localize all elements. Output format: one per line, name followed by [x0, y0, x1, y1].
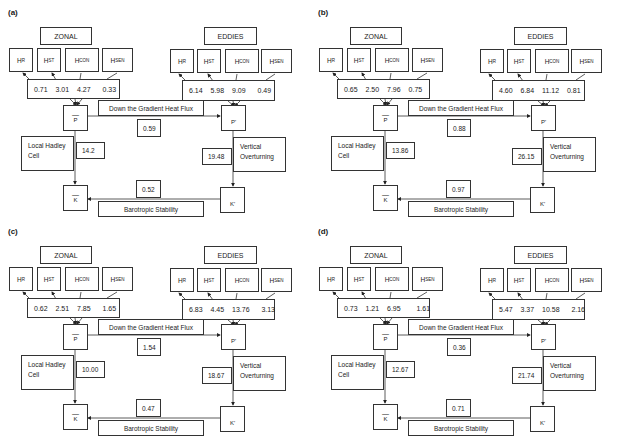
eddies-header: EDDIES: [514, 246, 567, 264]
zonal-values: 0.62 2.51 7.85 1.65: [27, 298, 120, 318]
panel-label: (c): [8, 227, 18, 236]
gradient-flux-value: 1.54: [137, 338, 161, 356]
zonal-header: ZONAL: [40, 246, 92, 264]
gradient-flux-value: 0.59: [137, 119, 161, 137]
panel-a: (a) ZONAL HR HST HCON HSEN 0.71 3.01 4.2…: [0, 0, 310, 218]
eddy-h-r: HR: [480, 49, 504, 73]
subscript: SEN: [584, 59, 593, 64]
eddy-values: 5.47 3.37 10.58 2.16: [492, 299, 585, 320]
vertical-line2: Overturning: [550, 152, 584, 162]
eddy-ke-box: K': [220, 187, 245, 213]
eddy-h-con: HCON: [535, 268, 569, 292]
hadley-line1: Local Hadley: [28, 360, 66, 370]
barotropic-label: Barotropic Stability: [408, 201, 514, 217]
hadley-line1: Local Hadley: [338, 141, 376, 151]
eddy-h-r: HR: [170, 268, 194, 292]
zonal-header: ZONAL: [40, 27, 92, 45]
hadley-value: 14.2: [76, 142, 105, 159]
zonal-h-r: HR: [319, 267, 343, 291]
subscript: CON: [549, 278, 559, 283]
k-bar-label: K: [383, 197, 387, 204]
subscript: CON: [389, 58, 399, 63]
subscript: ST: [48, 58, 54, 63]
subscript: R: [493, 59, 496, 64]
panel-label: (a): [8, 8, 18, 17]
zonal-header: ZONAL: [350, 246, 402, 264]
p-bar-label: P: [73, 336, 77, 343]
panel-d: (d) ZONAL HR HST HCON HSEN 0.73 1.21 6.9…: [310, 219, 620, 437]
vertical-line2: Overturning: [240, 371, 274, 381]
eddy-h-st: HST: [507, 49, 531, 73]
zonal-h-con: HCON: [375, 48, 409, 72]
subscript: CON: [549, 59, 559, 64]
panel-label: (d): [318, 227, 328, 236]
zonal-ke-box: — K: [63, 185, 88, 211]
subscript: CON: [239, 278, 249, 283]
zonal-values: 0.65 2.50 7.96 0.75: [337, 79, 430, 99]
eddy-ape-box: P': [531, 105, 556, 131]
zonal-values: 0.71 3.01 4.27 0.33: [27, 79, 120, 99]
hadley-value: 10.00: [76, 361, 105, 378]
zonal-h-st: HST: [37, 48, 61, 72]
gradient-flux-value: 0.36: [447, 338, 471, 356]
zonal-h-sen: HSEN: [102, 48, 133, 72]
zonal-h-st: HST: [347, 267, 371, 291]
eddy-h-sen: HSEN: [261, 49, 292, 73]
hadley-cell-label: Local Hadley Cell: [21, 136, 74, 171]
zonal-ke-box: — K: [63, 404, 88, 430]
zonal-ape-box: — P: [373, 324, 398, 350]
zonal-h-sen: HSEN: [412, 48, 443, 72]
subscript: ST: [48, 277, 54, 282]
zonal-h-con: HCON: [375, 267, 409, 291]
gradient-flux-label: Down the Gradient Heat Flux: [98, 319, 204, 335]
hadley-line1: Local Hadley: [28, 141, 66, 151]
subscript: ST: [518, 59, 524, 64]
eddy-values: 4.60 6.84 11.12 0.81: [492, 80, 585, 101]
vertical-overturning-value: 18.67: [202, 367, 232, 384]
subscript: SEN: [425, 58, 434, 63]
gradient-flux-label: Down the Gradient Heat Flux: [98, 100, 204, 116]
zonal-h-sen: HSEN: [102, 267, 133, 291]
subscript: SEN: [274, 278, 283, 283]
zonal-h-r: HR: [9, 267, 33, 291]
vertical-overturning-label: Vertical Overturning: [233, 356, 286, 391]
vertical-overturning-label: Vertical Overturning: [543, 356, 596, 391]
eddy-values: 6.14 5.98 9.09 0.49: [182, 80, 275, 101]
eddies-header: EDDIES: [204, 27, 257, 45]
zonal-h-r: HR: [9, 48, 33, 72]
vertical-overturning-value: 19.48: [202, 148, 232, 165]
subscript: CON: [239, 59, 249, 64]
eddy-h-con: HCON: [225, 49, 259, 73]
k-bar-label: K: [383, 416, 387, 423]
zonal-ape-box: — P: [63, 105, 88, 131]
barotropic-value: 0.52: [136, 180, 161, 198]
hadley-line2: Cell: [28, 151, 39, 161]
gradient-flux-label: Down the Gradient Heat Flux: [408, 100, 514, 116]
barotropic-label: Barotropic Stability: [98, 201, 204, 217]
p-prime-label: P': [231, 119, 236, 126]
eddy-h-st: HST: [507, 268, 531, 292]
hadley-line1: Local Hadley: [338, 360, 376, 370]
eddy-h-sen: HSEN: [571, 268, 602, 292]
zonal-values: 0.73 1.21 6.95 1.61: [337, 298, 430, 318]
subscript: SEN: [274, 59, 283, 64]
subscript: R: [332, 58, 335, 63]
vertical-overturning-label: Vertical Overturning: [543, 137, 596, 172]
hadley-cell-label: Local Hadley Cell: [331, 355, 384, 390]
gradient-flux-label: Down the Gradient Heat Flux: [408, 319, 514, 335]
eddy-ape-box: P': [531, 324, 556, 350]
barotropic-value: 0.47: [136, 399, 161, 417]
hadley-line2: Cell: [338, 370, 349, 380]
subscript: R: [22, 58, 25, 63]
zonal-h-con: HCON: [65, 267, 99, 291]
barotropic-value: 0.97: [446, 180, 471, 198]
hadley-cell-label: Local Hadley Cell: [331, 136, 384, 171]
panel-b: (b) ZONAL HR HST HCON HSEN 0.65 2.50 7.9…: [310, 0, 620, 218]
eddies-header: EDDIES: [514, 27, 567, 45]
eddy-h-st: HST: [197, 268, 221, 292]
eddy-h-r: HR: [170, 49, 194, 73]
zonal-ke-box: — K: [373, 404, 398, 430]
eddy-h-sen: HSEN: [571, 49, 602, 73]
k-prime-label: K': [230, 420, 235, 427]
zonal-h-st: HST: [37, 267, 61, 291]
